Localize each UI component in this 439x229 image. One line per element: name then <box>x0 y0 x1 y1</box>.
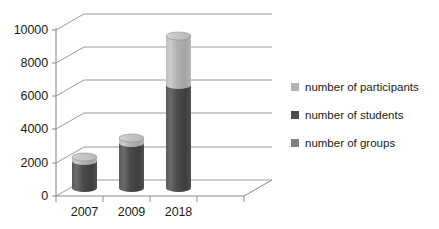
x-tick-label-2009: 2009 <box>109 205 154 219</box>
legend-item-groups[interactable]: number of groups <box>291 135 439 151</box>
bar-2018 <box>166 32 191 192</box>
x-tick-label-2018: 2018 <box>156 205 201 219</box>
y-tick-label-8000: 8000 <box>2 56 48 70</box>
bar-2007 <box>72 153 97 192</box>
legend-label-groups: number of groups <box>305 137 395 149</box>
y-axis <box>52 28 56 197</box>
legend-item-students[interactable]: number of students <box>291 107 439 123</box>
legend-label-students: number of students <box>305 109 403 121</box>
chart-legend: number of participants number of student… <box>291 79 439 163</box>
y-tick-label-4000: 4000 <box>2 122 48 136</box>
y-tick-label-0: 0 <box>2 189 48 203</box>
x-axis <box>56 196 244 202</box>
x-tick-label-2007: 2007 <box>62 205 107 219</box>
y-tick-label-10000: 10000 <box>2 23 48 37</box>
y-tick-label-6000: 6000 <box>2 89 48 103</box>
legend-swatch-groups-icon <box>291 139 299 147</box>
bar-2009 <box>119 134 144 192</box>
legend-swatch-participants-icon <box>291 83 299 91</box>
legend-swatch-students-icon <box>291 111 299 119</box>
legend-item-participants[interactable]: number of participants <box>291 79 439 95</box>
legend-label-participants: number of participants <box>305 81 419 93</box>
y-tick-label-2000: 2000 <box>2 156 48 170</box>
chart-container: 10000 8000 6000 4000 2000 0 2007 2009 20… <box>0 0 439 229</box>
